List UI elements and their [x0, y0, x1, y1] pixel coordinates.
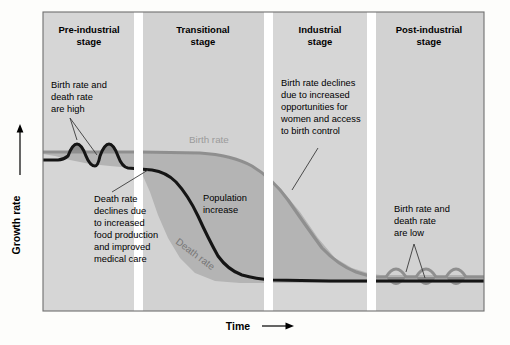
stage-label-industrial-line1: Industrial [299, 24, 342, 35]
stage-label-post-industrial-line1: Post-industrial [396, 24, 463, 35]
annotation-pre-industrial-line3: are high [51, 104, 85, 114]
population-increase-label-line2: increase [203, 205, 238, 215]
x-axis-label: Time [226, 320, 250, 332]
stage-label-post-industrial-line2: stage [417, 36, 442, 47]
stage-label-pre-industrial-line1: Pre-industrial [58, 24, 119, 35]
population-increase-label-line1: Population [203, 193, 247, 203]
annotation-transitional-line6: medical care [94, 254, 147, 264]
stage-label-transitional-line1: Transitional [176, 24, 229, 35]
annotation-industrial-line3: opportunities for [281, 102, 348, 112]
stage-label-transitional-line2: stage [191, 36, 216, 47]
annotation-post-industrial-line3: are low [394, 228, 424, 238]
annotation-post-industrial-line2: death rate [394, 216, 436, 226]
stage-divider-2 [264, 12, 273, 311]
annotation-transitional-line1: Death rate [94, 194, 137, 204]
demographic-transition-chart: Pre-industrial stage Transitional stage … [0, 0, 510, 345]
stage-divider-1 [134, 12, 143, 311]
annotation-industrial-line4: women and access [280, 114, 361, 124]
annotation-pre-industrial-line2: death rate [51, 92, 93, 102]
y-axis-label: Growth rate [10, 195, 22, 254]
annotation-transitional-line3: to increased [94, 218, 145, 228]
annotation-transitional-line5: and improved [94, 242, 150, 252]
annotation-pre-industrial-line1: Birth rate and [51, 80, 107, 90]
stage-label-pre-industrial-line2: stage [77, 36, 102, 47]
stage-panel-post-industrial [375, 12, 484, 311]
annotation-transitional-line2: declines due [94, 206, 146, 216]
annotation-industrial-line1: Birth rate declines [281, 78, 356, 88]
annotation-industrial-line2: due to increased [281, 90, 350, 100]
annotation-post-industrial-line1: Birth rate and [394, 204, 450, 214]
stage-label-industrial-line2: stage [308, 36, 333, 47]
figure-container: Pre-industrial stage Transitional stage … [0, 0, 510, 345]
birth-rate-label: Birth rate [189, 134, 229, 145]
annotation-industrial-line5: to birth control [281, 126, 340, 136]
annotation-transitional-line4: food production [94, 230, 158, 240]
stage-divider-3 [367, 12, 376, 311]
